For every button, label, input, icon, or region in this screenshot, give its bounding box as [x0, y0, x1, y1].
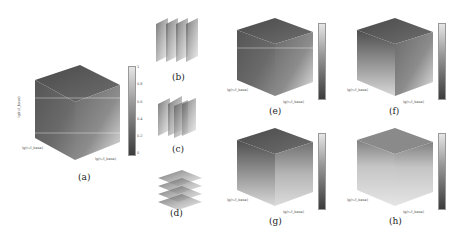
caption-d: (d): [170, 208, 183, 218]
caption-e: (e): [269, 106, 281, 116]
colorbar-e: [318, 23, 326, 100]
slices-x-plot: [150, 8, 210, 68]
panel-d: (d): [150, 168, 210, 246]
caption-f: (f): [389, 106, 399, 116]
caption-b: (b): [172, 72, 185, 82]
caption-g: (g): [269, 216, 282, 226]
panel-b: (b): [150, 8, 210, 88]
caption-h: (h): [389, 216, 402, 226]
slices-y-plot: [150, 92, 210, 142]
panel-f: lg(r₂/l_base) lg(r₁/l_base) (f): [345, 18, 455, 123]
colorbar-h: [438, 133, 446, 210]
colorbar-g: [318, 133, 326, 210]
colorbar-a: [128, 66, 136, 156]
panel-h: lg(r₂/l_base) lg(r₁/l_base) (h): [345, 128, 455, 233]
caption-c: (c): [172, 144, 184, 154]
panel-g: lg(r₂/l_base) lg(r₁/l_base) (g): [225, 128, 335, 233]
colorbar-f: [438, 23, 446, 100]
x-axis-label: lg(r₁/l_base): [95, 157, 116, 161]
y-axis-label: lg(r₂/l_base): [22, 146, 43, 150]
caption-a: (a): [78, 172, 90, 182]
panel-a: lg(r₃/l_base) lg(r₂/l_base) lg(r₁/l_base…: [0, 60, 150, 220]
z-axis-label: lg(r₃/l_base): [17, 96, 21, 117]
panel-e: lg(r₂/l_base) lg(r₁/l_base) (e): [225, 18, 335, 123]
panel-c: (c): [150, 92, 210, 162]
